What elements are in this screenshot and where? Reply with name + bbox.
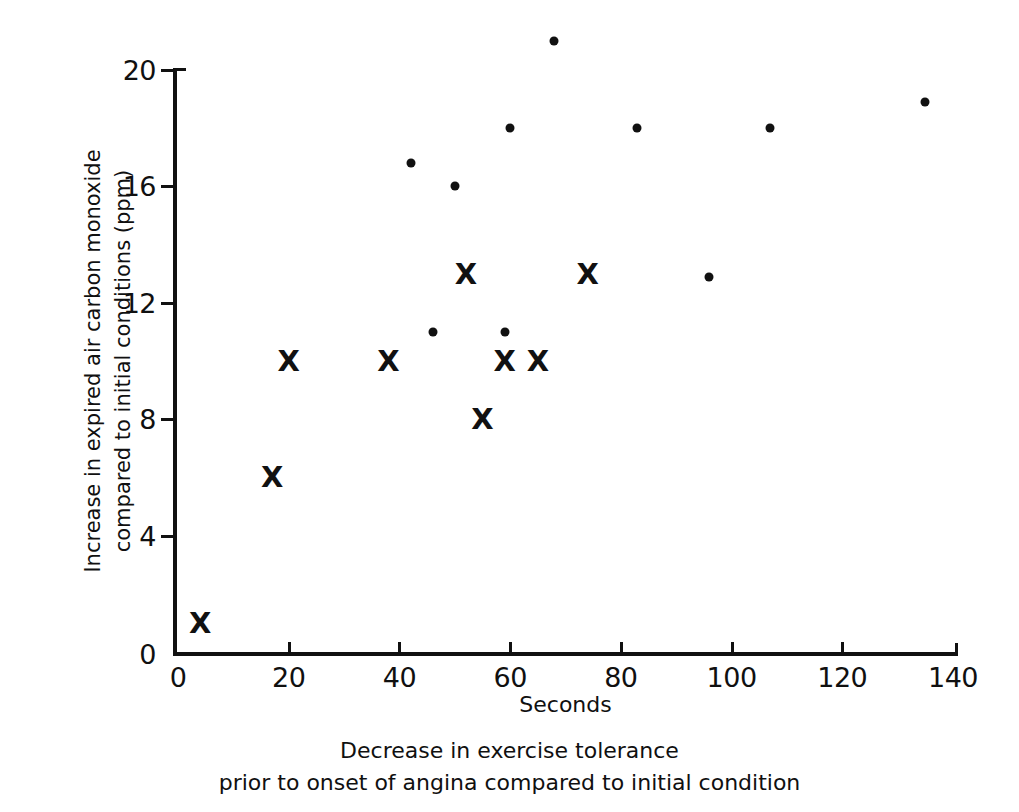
data-point-dot-7 [705,272,714,281]
y-tick-8 [161,418,174,421]
figure-caption: Decrease in exercise tolerance prior to … [0,735,1019,799]
data-point-dot-0 [550,36,559,45]
x-tick-120 [841,642,844,656]
data-point-dot-8 [428,327,437,336]
x-tick-60 [509,642,512,656]
data-point-dot-1 [406,159,415,168]
data-point-cross-1: X [261,463,283,492]
x-axis-right-cap [955,643,958,656]
x-tick-label-0: 0 [170,662,187,693]
x-tick-label-80: 80 [604,662,637,693]
data-point-dot-5 [766,124,775,133]
data-point-cross-6: X [493,347,515,376]
y-tick-12 [161,302,174,305]
data-point-dot-9 [500,327,509,336]
y-tick-4 [161,535,174,538]
x-tick-label-40: 40 [383,662,416,693]
x-tick-label-60: 60 [493,662,526,693]
data-point-cross-5: X [471,405,493,434]
y-tick-16 [161,185,174,188]
x-tick-label-120: 120 [817,662,867,693]
y-axis-line [173,68,177,654]
y-axis-label: Increase in expired air carbon monoxide … [60,70,156,652]
x-tick-80 [620,642,623,656]
x-tick-40 [398,642,401,656]
data-point-dot-6 [921,98,930,107]
data-point-cross-4: X [455,259,477,288]
data-point-dot-3 [506,124,515,133]
caption-line-1: Decrease in exercise tolerance [0,735,1019,767]
data-point-cross-8: X [576,259,598,288]
caption-line-2: prior to onset of angina compared to ini… [0,767,1019,799]
x-axis-label: Seconds [178,692,953,717]
plot-area: 048121620 020406080100120140 XXXXXXXXX [178,70,953,652]
y-axis-label-line-2: compared to initial conditions (ppm) [108,170,138,553]
data-point-cross-0: X [189,608,211,637]
x-tick-100 [731,642,734,656]
y-axis-top-cap [173,68,186,71]
data-point-dot-4 [633,124,642,133]
y-axis-label-line-1: Increase in expired air carbon monoxide [78,149,108,572]
y-tick-20 [161,69,174,72]
data-point-cross-2: X [278,347,300,376]
data-point-dot-2 [450,182,459,191]
x-tick-label-100: 100 [707,662,757,693]
x-tick-label-20: 20 [272,662,305,693]
data-point-cross-7: X [527,347,549,376]
x-tick-20 [288,642,291,656]
scatter-plot-figure: 048121620 020406080100120140 XXXXXXXXX I… [0,0,1019,812]
x-tick-label-140: 140 [928,662,978,693]
data-point-cross-3: X [377,347,399,376]
